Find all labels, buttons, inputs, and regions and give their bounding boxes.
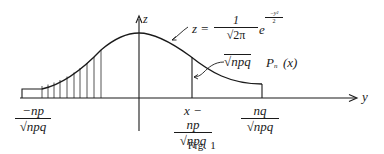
tick-right-denominator: √npq (241, 119, 279, 134)
step-label-sub: n (274, 62, 278, 70)
left-step (22, 89, 42, 98)
step-label-arg: (x) (283, 55, 297, 71)
exponent-numerator: −y² (265, 10, 283, 18)
y-axis-label: y (362, 89, 368, 105)
formula-exponent: −y² 2 (265, 10, 283, 25)
tick-right-numerator: nq (241, 104, 279, 119)
step-label-radical: √npq (224, 54, 251, 69)
shaded-area (42, 50, 101, 98)
tick-label-right: nq √npq (241, 104, 279, 134)
formula-base: e (259, 22, 265, 38)
step-label-func: P (266, 55, 274, 71)
figure-caption: Fig. 1 (10, 139, 384, 151)
formula-fraction: 1 √2π (214, 13, 258, 43)
exponent-denominator: 2 (265, 18, 283, 25)
formula-numerator: 1 (214, 13, 258, 28)
tick-middle-numerator: x − np (174, 104, 212, 133)
tick-left-denominator: √npq (15, 119, 51, 134)
formula-lhs: z = (192, 21, 209, 37)
z-axis-label: z (143, 12, 148, 27)
figure: z y z = 1 √2π e −y² 2 √npq P n (x) −np √… (0, 0, 384, 154)
formula-denominator: √2π (214, 28, 258, 43)
tick-left-numerator: −np (15, 104, 51, 119)
tick-label-left: −np √npq (15, 104, 51, 134)
